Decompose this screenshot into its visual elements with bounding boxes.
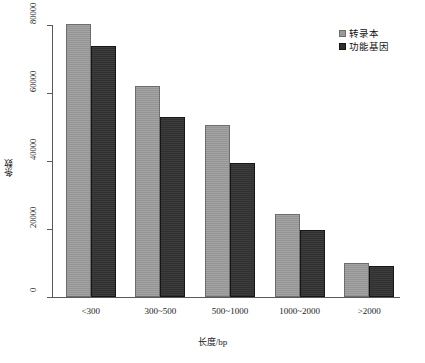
y-axis-tick-label: 20000: [20, 216, 46, 228]
chart-legend: 转录本功能基因: [339, 27, 417, 53]
bar-gene-2: [230, 163, 255, 297]
bar-gene-1: [160, 117, 185, 297]
x-axis-line: [52, 297, 400, 298]
y-axis-tick-label: 0: [20, 284, 46, 296]
legend-item-gene[interactable]: 功能基因: [339, 40, 417, 52]
bar-gene-4: [369, 266, 394, 297]
y-axis-label: 条数: [0, 148, 16, 188]
legend-swatch-transcript-icon: [339, 30, 346, 37]
legend-item-transcript[interactable]: 转录本: [339, 27, 417, 39]
x-axis-tick-label: <300: [51, 306, 131, 316]
bar-chart-figure: 条数 020000400006000080000 <300300~500500~…: [0, 0, 425, 363]
bar-gene-0: [91, 46, 116, 297]
x-axis-tick-label: >2000: [329, 306, 409, 316]
bar-transcript-0: [66, 24, 91, 297]
bar-transcript-1: [135, 86, 160, 297]
legend-item-label: 转录本: [349, 28, 379, 39]
x-axis-tick-label: 1000~2000: [260, 306, 340, 316]
bar-transcript-3: [275, 214, 300, 297]
y-axis-tick-label: 60000: [20, 80, 46, 92]
y-axis-tick-label: 40000: [20, 148, 46, 160]
bar-gene-3: [300, 230, 325, 297]
x-axis-label: 长度/bp: [0, 335, 425, 348]
x-axis-tick-label: 300~500: [120, 306, 200, 316]
bar-transcript-2: [205, 125, 230, 297]
bar-transcript-4: [344, 263, 369, 297]
legend-swatch-gene-icon: [339, 43, 346, 50]
x-axis-tick-label: 500~1000: [190, 306, 270, 316]
legend-item-label: 功能基因: [349, 41, 389, 52]
y-axis-tick-label: 80000: [20, 12, 46, 24]
plot-area: [52, 12, 400, 297]
